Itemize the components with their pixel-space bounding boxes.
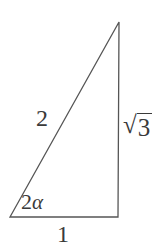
square-root-expression: √3 [123, 112, 152, 140]
triangle-outline [10, 22, 119, 217]
alpha-symbol: α [32, 190, 43, 214]
base-angle-label: 2α [21, 191, 43, 213]
hypotenuse-length-label: 2 [36, 106, 48, 130]
base-length-label: 1 [57, 222, 69, 246]
radicand-value: 3 [137, 113, 153, 140]
triangle-figure: 2 1 2α √3 [0, 0, 156, 252]
vertical-side-length-label: √3 [123, 112, 152, 140]
angle-coefficient: 2 [21, 189, 32, 214]
radical-icon: √ [123, 112, 137, 140]
